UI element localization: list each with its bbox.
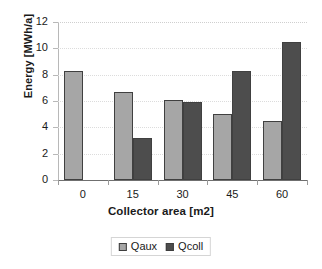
bar-qaux-45: [213, 114, 232, 180]
bar-group: [114, 22, 152, 180]
legend-swatch-icon: [119, 243, 127, 251]
bar-qcoll-15: [133, 138, 152, 180]
y-tick-label: 0: [8, 174, 48, 185]
x-tick-mark: [207, 180, 208, 185]
y-tick-label: 6: [8, 95, 48, 106]
x-tick-label: 60: [257, 188, 307, 200]
x-tick-label: 15: [108, 188, 158, 200]
legend-entry-qaux: Qaux: [119, 241, 157, 252]
bar-group: [164, 22, 202, 180]
x-axis-title: Collector area [m2]: [0, 205, 322, 217]
x-tick-label: 30: [158, 188, 208, 200]
bar-qaux-0: [64, 71, 83, 180]
chart-legend: QauxQcoll: [111, 237, 211, 256]
y-tick-label: 8: [8, 69, 48, 80]
x-axis-line: [58, 180, 308, 181]
y-tick-label: 10: [8, 42, 48, 53]
x-tick-label: 45: [207, 188, 257, 200]
bar-qcoll-30: [183, 102, 202, 180]
bars-layer: [58, 22, 307, 180]
x-tick-mark: [108, 180, 109, 185]
bar-qcoll-60: [282, 42, 301, 180]
y-tick-label: 4: [8, 121, 48, 132]
x-tick-mark: [58, 180, 59, 185]
plot-area: [58, 22, 307, 180]
bar-qcoll-45: [232, 71, 251, 180]
bar-chart: Energy [MWh/a] 024681012 015304560 Colle…: [0, 0, 322, 269]
legend-entry-qcoll: Qcoll: [166, 241, 203, 252]
legend-label: Qaux: [131, 241, 157, 252]
legend-swatch-icon: [166, 243, 174, 251]
bar-qaux-15: [114, 92, 133, 180]
x-tick-label: 0: [58, 188, 108, 200]
bar-group: [213, 22, 251, 180]
bar-group: [263, 22, 301, 180]
bar-group: [64, 22, 102, 180]
x-tick-mark: [307, 180, 308, 185]
x-tick-mark: [257, 180, 258, 185]
x-tick-mark: [158, 180, 159, 185]
bar-qaux-30: [164, 100, 183, 180]
bar-qaux-60: [263, 121, 282, 180]
y-tick-label: 2: [8, 148, 48, 159]
y-tick-label: 12: [8, 16, 48, 27]
legend-label: Qcoll: [178, 241, 203, 252]
